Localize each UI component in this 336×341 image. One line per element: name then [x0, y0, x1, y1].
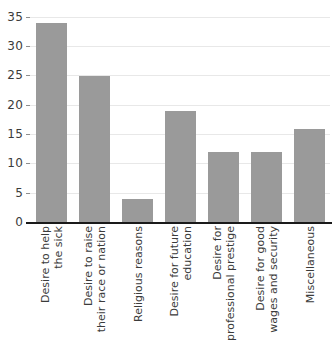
y-tick-label: 15 — [7, 128, 23, 140]
x-tick-label-line: the sick — [52, 226, 65, 303]
y-tick-label: 10 — [7, 157, 23, 169]
y-tick-label: 35 — [7, 11, 23, 23]
x-tick-label-slot: Miscellaneous — [294, 226, 325, 338]
x-tick-label: Desire for good wages and security — [254, 226, 280, 333]
x-tick-label: Religious reasons — [131, 226, 144, 322]
x-tick-label-line: Desire to help — [39, 226, 52, 303]
x-tick-label: Desire to help the sick — [39, 226, 65, 303]
x-tick-label: Miscellaneous — [303, 226, 316, 303]
x-tick-label-line: Desire for — [211, 226, 224, 341]
x-tick-label-slot: Desire to help the sick — [36, 226, 67, 338]
x-tick-label-slot: Desire to raise their race or nation — [79, 226, 110, 338]
bar-desire-for-good-wages-security — [251, 152, 282, 223]
y-axis: 35 30 25 20 15 10 5 0 — [0, 0, 30, 338]
x-tick-label-line: wages and security — [267, 226, 280, 333]
bar-desire-to-raise-race-or-nation — [79, 76, 110, 223]
plot-area — [30, 10, 330, 223]
y-tick-label: 30 — [7, 40, 23, 52]
y-tick-label: 0 — [15, 216, 23, 228]
x-tick-label-slot: Desire for future education — [165, 226, 196, 338]
x-tick-label-line: Miscellaneous — [303, 226, 316, 303]
y-tick-label: 25 — [7, 69, 23, 81]
y-tick-label: 5 — [15, 187, 23, 199]
x-tick-label-line: Religious reasons — [131, 226, 144, 322]
bar-miscellaneous — [294, 129, 325, 223]
x-tick-label-slot: Desire for professional prestige — [208, 226, 239, 338]
x-tick-label-line: their race or nation — [95, 226, 108, 332]
x-tick-label-line: Desire to raise — [82, 226, 95, 332]
y-tick-label: 20 — [7, 99, 23, 111]
x-tick-label-slot: Desire for good wages and security — [251, 226, 282, 338]
x-tick-label: Desire to raise their race or nation — [82, 226, 108, 332]
x-axis-labels: Desire to help the sick Desire to raise … — [30, 226, 330, 338]
x-tick-label-line: Desire for future — [168, 226, 181, 316]
x-tick-label: Desire for future education — [168, 226, 194, 316]
bar-series — [30, 10, 330, 223]
x-tick-label-line: professional prestige — [224, 226, 237, 341]
x-tick-label-slot: Religious reasons — [122, 226, 153, 338]
x-tick-label-line: education — [181, 226, 194, 316]
bar-desire-to-help-the-sick — [36, 23, 67, 223]
bar-religious-reasons — [122, 199, 153, 223]
bar-desire-for-professional-prestige — [208, 152, 239, 223]
bar-desire-for-future-education — [165, 111, 196, 223]
x-tick-label-line: Desire for good — [254, 226, 267, 333]
x-axis-baseline — [26, 222, 332, 224]
x-tick-label: Desire for professional prestige — [211, 226, 237, 341]
